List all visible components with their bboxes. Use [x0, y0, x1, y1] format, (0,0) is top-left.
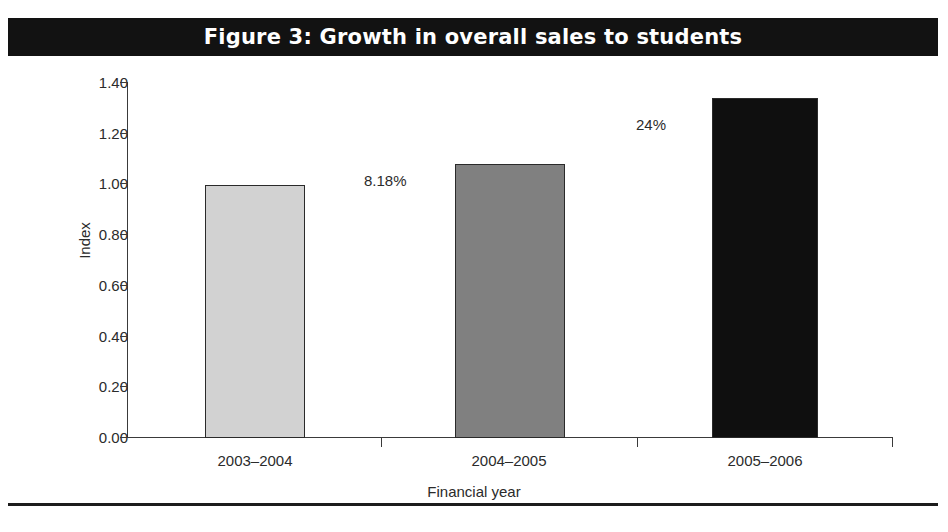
y-tick-mark: [120, 183, 128, 184]
y-tick-1.20: 1.20: [0, 133, 128, 134]
bar-2004-2005: [455, 164, 565, 438]
x-category-label-2005-2006: 2005–2006: [685, 452, 845, 469]
y-tick-0.80: 0.80: [0, 234, 128, 235]
annotation-growth-2004-2005: 8.18%: [364, 172, 407, 189]
y-tick-mark: [120, 133, 128, 134]
x-tick-mark: [637, 438, 638, 447]
y-tick-mark: [120, 386, 128, 387]
bottom-divider: [8, 503, 938, 506]
y-tick-0.60: 0.60: [0, 285, 128, 286]
x-tick-mark: [892, 438, 893, 447]
y-tick-0.00: 0.00: [0, 437, 128, 438]
y-tick-mark: [120, 336, 128, 337]
y-tick-mark: [120, 285, 128, 286]
page-title: Figure 3: Growth in overall sales to stu…: [204, 25, 742, 49]
bar-chart: 1.40 1.20 1.00 0.80 0.60 0.40 0.20 0.00 …: [0, 56, 948, 505]
x-category-label-2003-2004: 2003–2004: [175, 452, 335, 469]
y-tick-0.20: 0.20: [0, 386, 128, 387]
annotation-growth-2005-2006: 24%: [636, 116, 666, 133]
figure-title-bar: Figure 3: Growth in overall sales to stu…: [8, 18, 938, 56]
y-tick-mark: [120, 437, 128, 438]
y-tick-1.40: 1.40: [0, 82, 128, 83]
y-axis-title: Index: [76, 201, 93, 281]
y-tick-mark: [120, 234, 128, 235]
y-tick-0.40: 0.40: [0, 336, 128, 337]
x-axis-title: Financial year: [0, 483, 948, 500]
bar-2003-2004: [205, 185, 305, 439]
y-tick-mark: [120, 82, 128, 83]
x-tick-mark: [381, 438, 382, 447]
bar-2005-2006: [712, 98, 818, 438]
y-tick-1.00: 1.00: [0, 183, 128, 184]
x-category-label-2004-2005: 2004–2005: [429, 452, 589, 469]
